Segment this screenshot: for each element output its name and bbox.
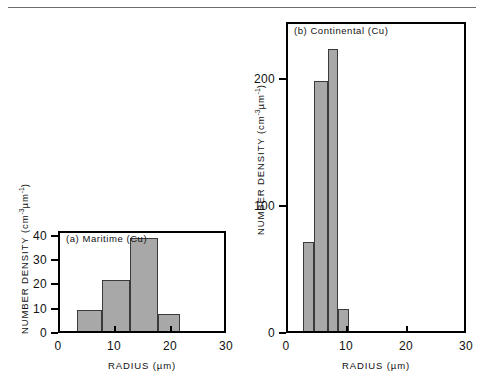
histogram-bars-maritime <box>60 233 224 331</box>
y-tick-mark <box>279 332 286 334</box>
y-axis-title-unit: µm <box>255 94 266 109</box>
x-tick-mark <box>170 326 172 332</box>
figure-root: (a) Maritime (Cu) 0 10 20 30 40 0 10 20 … <box>0 0 484 389</box>
y-tick-mark <box>279 205 286 207</box>
y-tick-mark <box>51 283 58 285</box>
y-axis-title-close: ) <box>255 84 266 88</box>
x-axis-title-continental: RADIUS (µm) <box>296 360 456 371</box>
panel-continental: (b) Continental (Cu) 0 100 200 0 10 20 3… <box>240 0 484 389</box>
panel-maritime: (a) Maritime (Cu) 0 10 20 30 40 0 10 20 … <box>0 0 240 389</box>
x-tick-mark <box>114 326 116 332</box>
x-axis-title-maritime: RADIUS (µm) <box>62 360 222 371</box>
histogram-bar <box>314 81 328 331</box>
histogram-bar <box>102 280 130 331</box>
y-axis-title-text: NUMBER DENSITY (cm <box>255 116 266 235</box>
y-axis-exponent-2: -1 <box>254 88 261 94</box>
y-axis-title-continental: NUMBER DENSITY (cm-3µm-1) <box>254 84 266 235</box>
x-tick-mark <box>464 326 466 332</box>
x-tick-label: 0 <box>38 339 78 353</box>
x-tick-label: 20 <box>386 339 426 353</box>
x-tick-mark <box>406 326 408 332</box>
y-tick-mark <box>51 308 58 310</box>
x-tick-label: 10 <box>326 339 366 353</box>
histogram-bar <box>77 310 102 331</box>
y-tick-mark <box>51 259 58 261</box>
y-axis-exponent-1: -3 <box>18 208 25 214</box>
x-tick-label: 30 <box>446 339 484 353</box>
x-tick-mark <box>346 326 348 332</box>
y-tick-mark <box>279 78 286 80</box>
y-axis-exponent-1: -3 <box>254 109 261 115</box>
x-tick-mark <box>286 326 288 332</box>
panel-title-continental: (b) Continental (Cu) <box>294 25 388 36</box>
x-tick-mark <box>224 326 226 332</box>
x-tick-mark <box>58 326 60 332</box>
histogram-bar <box>328 49 338 331</box>
y-axis-title-maritime: NUMBER DENSITY (cm-3µm-1) <box>18 183 30 334</box>
y-axis-title-unit: µm <box>19 193 30 208</box>
x-tick-label: 10 <box>94 339 134 353</box>
y-tick-mark <box>51 332 58 334</box>
y-tick-label: 0 <box>239 326 275 340</box>
x-tick-label: 0 <box>266 339 306 353</box>
histogram-bar <box>130 238 158 331</box>
histogram-bar <box>303 242 314 331</box>
y-tick-mark <box>51 235 58 237</box>
y-axis-exponent-2: -1 <box>18 187 25 193</box>
panel-title-maritime: (a) Maritime (Cu) <box>66 233 147 244</box>
plot-area-continental <box>286 22 466 333</box>
plot-area-maritime <box>58 231 226 333</box>
x-tick-label: 20 <box>150 339 190 353</box>
y-axis-title-text: NUMBER DENSITY (cm <box>19 215 30 334</box>
histogram-bars-continental <box>288 24 464 331</box>
y-axis-title-close: ) <box>19 183 30 187</box>
